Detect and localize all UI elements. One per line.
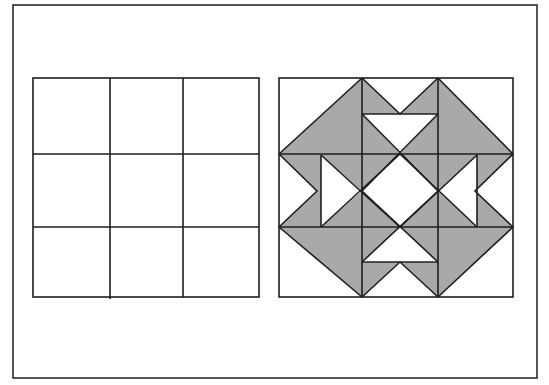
quilt-diagram: [0, 0, 549, 385]
